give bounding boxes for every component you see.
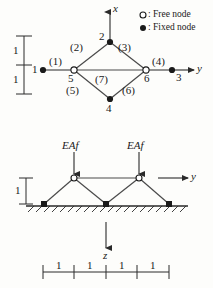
node-5-label: 5 (68, 73, 74, 84)
x-axis-label: x (113, 3, 118, 14)
span-1-label: 1 (56, 260, 62, 271)
side-support-left (41, 201, 47, 207)
side-diag-3 (106, 178, 139, 204)
member-6-label: (6) (122, 85, 135, 96)
member-7-label: (7) (95, 74, 108, 85)
span-4-label: 1 (150, 260, 156, 271)
node-3-marker (169, 67, 175, 73)
legend-fixed-label: : Fixed node (148, 22, 196, 32)
legend-fixed-marker (140, 25, 146, 31)
span-2-label: 1 (87, 260, 93, 271)
top-dimension-upper-label: 1 (13, 45, 19, 56)
side-diag-4 (139, 178, 169, 204)
z-axis-label: z (103, 250, 107, 261)
member-4-label: (4) (152, 56, 165, 67)
node-1-marker (40, 67, 46, 73)
span-3-label: 1 (119, 260, 125, 271)
load-2-label: EAf (127, 140, 144, 151)
member-5-label: (5) (66, 85, 79, 96)
member-2-label: (2) (70, 42, 83, 53)
side-free-node-left (71, 175, 77, 181)
load-1-label: EAf (62, 140, 79, 151)
node-1-label: 1 (32, 64, 38, 75)
y-axis-label: y (197, 63, 202, 74)
figure-canvas (0, 0, 213, 288)
legend-fixed-node: : Fixed node (148, 23, 196, 33)
side-support-right (166, 201, 172, 207)
side-diag-1 (44, 178, 74, 204)
legend-free-marker (140, 12, 146, 18)
truss-figure: : Free node : Fixed node x y 1 2 3 4 5 6… (0, 0, 213, 288)
node-2-label: 2 (99, 31, 105, 42)
side-free-node-right (136, 175, 142, 181)
node-6-label: 6 (144, 73, 150, 84)
node-3-label: 3 (176, 72, 182, 83)
side-height-label: 1 (15, 185, 21, 196)
side-diag-2 (74, 178, 106, 204)
node-4-label: 4 (106, 103, 112, 114)
node-2-marker (107, 39, 113, 45)
side-height-dimension (19, 178, 33, 204)
side-support-middle (103, 201, 109, 207)
side-y-axis-label: y (191, 171, 196, 182)
legend-free-node: : Free node (148, 10, 191, 20)
legend-free-label: : Free node (148, 9, 191, 19)
member-1-label: (1) (49, 56, 62, 67)
member-3-label: (3) (118, 42, 131, 53)
top-dimension-lower-label: 1 (13, 74, 19, 85)
